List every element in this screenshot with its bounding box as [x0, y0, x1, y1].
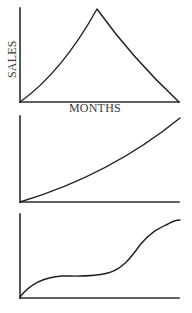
- sales-curve-plateau: [20, 220, 180, 297]
- chart-peaked: SALES MONTHS: [5, 8, 179, 115]
- chart-steady-rise: [20, 116, 180, 202]
- y-axis-label: SALES: [5, 40, 19, 78]
- sales-curve-steady: [20, 118, 180, 202]
- chart-plateau-rise: [20, 214, 180, 298]
- x-axis-label: MONTHS: [69, 101, 121, 115]
- sales-curves-diagram: SALES MONTHS: [0, 0, 192, 313]
- sales-curve-peaked: [20, 9, 179, 102]
